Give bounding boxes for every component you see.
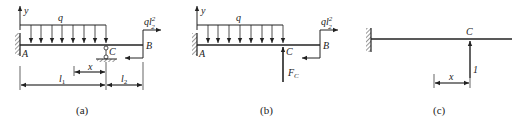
unit-force-label: 1 — [473, 64, 478, 75]
point-a-label: A — [21, 48, 29, 59]
load-label-a: q — [58, 12, 63, 23]
dim-x-label-c: x — [448, 71, 454, 82]
figure-a: y q A C B — [15, 5, 161, 117]
distributed-load-b — [197, 25, 283, 43]
y-axis-label-b: y — [200, 5, 206, 16]
distributed-load-a — [20, 25, 106, 43]
moment-label-a: ql22 — [144, 15, 156, 31]
y-axis-label-a: y — [23, 5, 29, 16]
caption-b: (b) — [260, 104, 273, 117]
point-c-label-b: C — [286, 46, 293, 57]
figure-b: y q A C B FC ql22 (b) — [192, 5, 338, 117]
force-label: FC — [287, 67, 299, 80]
beam-diagrams: y q A C B — [0, 0, 526, 127]
dim-l1-label: l1 — [59, 73, 66, 86]
load-label-b: q — [236, 12, 241, 23]
point-b-label-a: B — [146, 40, 152, 51]
fixed-wall-a — [15, 33, 20, 55]
moment-couple-a — [125, 30, 161, 58]
fixed-wall-c — [366, 28, 371, 52]
point-a-label-b: A — [198, 48, 206, 59]
figure-c: C 1 x (c) — [366, 26, 512, 117]
point-c-label-c: C — [466, 26, 473, 37]
point-c-label-a: C — [109, 46, 116, 57]
point-b-label-b: B — [323, 40, 329, 51]
caption-c: (c) — [433, 104, 446, 117]
dim-l2-label: l2 — [121, 73, 128, 86]
fixed-wall-b — [192, 33, 197, 55]
dim-x-label-a: x — [87, 61, 93, 72]
caption-a: (a) — [76, 104, 89, 117]
moment-couple-b — [302, 30, 338, 58]
moment-label-b: ql22 — [321, 15, 333, 31]
